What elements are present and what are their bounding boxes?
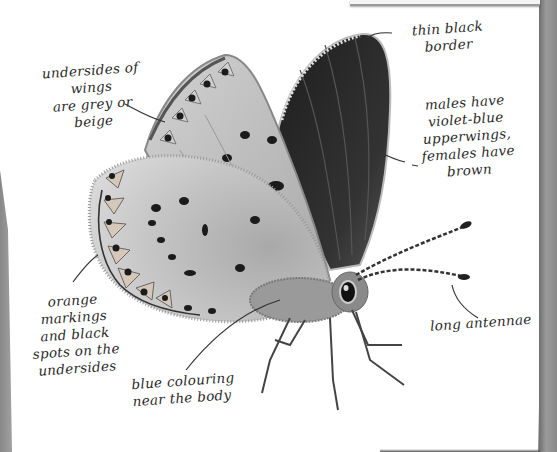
label-upperwing-colour: males have violet-blue upperwings, femal… — [409, 90, 525, 182]
label-underside-colour: undersides of wings are grey or beige — [30, 58, 154, 134]
label-orange-markings: orange markings and black spots on the u… — [22, 289, 128, 381]
legs — [262, 310, 404, 410]
label-thin-black-border: thin black border — [406, 17, 490, 57]
